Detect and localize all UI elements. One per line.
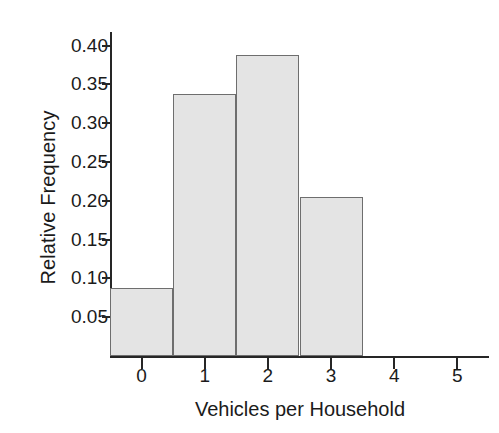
- x-tick-label: 5: [437, 365, 477, 387]
- y-tick-label: 0.05: [52, 306, 108, 328]
- y-tick-label: 0.10: [52, 267, 108, 289]
- y-tick-label: 0.40: [52, 35, 108, 57]
- relative-frequency-histogram: Relative Frequency 0.050.100.150.200.250…: [0, 0, 499, 433]
- x-axis-title: Vehicles per Household: [110, 398, 490, 421]
- y-tick-label: 0.30: [52, 112, 108, 134]
- x-axis-line: [110, 356, 489, 358]
- x-tick-label: 0: [122, 365, 162, 387]
- bar: [173, 94, 236, 356]
- x-tick-label: 4: [374, 365, 414, 387]
- x-tick-label: 1: [185, 365, 225, 387]
- bar: [300, 197, 363, 356]
- y-tick-mark: [102, 83, 111, 85]
- y-axis-tick-labels: 0.050.100.150.200.250.300.350.40: [52, 0, 108, 433]
- y-tick-mark: [102, 45, 111, 47]
- x-tick-label: 3: [311, 365, 351, 387]
- y-tick-label: 0.25: [52, 151, 108, 173]
- y-tick-mark: [102, 122, 111, 124]
- y-tick-mark: [102, 200, 111, 202]
- bar: [236, 55, 299, 356]
- y-tick-mark: [102, 277, 111, 279]
- x-tick-label: 2: [248, 365, 288, 387]
- y-tick-label: 0.20: [52, 190, 108, 212]
- plot-area: [110, 20, 490, 358]
- y-tick-label: 0.15: [52, 229, 108, 251]
- y-tick-mark: [102, 161, 111, 163]
- y-tick-mark: [102, 239, 111, 241]
- y-tick-label: 0.35: [52, 73, 108, 95]
- x-axis-tick-labels: 012345: [110, 365, 490, 395]
- bar: [110, 288, 173, 356]
